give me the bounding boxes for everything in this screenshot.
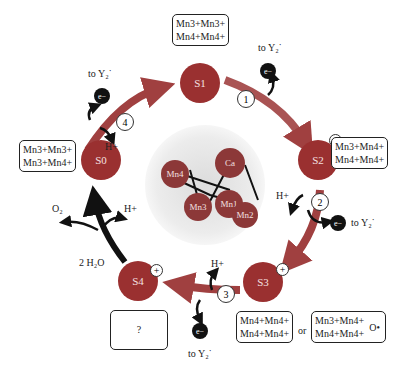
step-1: 1 [237, 90, 255, 108]
oxidation-s3: Mn4+Mn4+Mn4+Mn4+ [236, 311, 293, 343]
h-output: H+ [124, 203, 137, 214]
electron-2: e− [330, 215, 346, 231]
step-4: 4 [116, 113, 134, 131]
oxidation-s1: Mn3+Mn3+Mn4+Mn4+ [172, 14, 229, 46]
to-yz-2: to Y₂˙ [351, 217, 375, 228]
oxidation-s4: ? [110, 310, 168, 350]
proton-2: H+ [276, 190, 289, 201]
oxidation-s0: Mn3+Mn3+Mn3+Mn4+ [19, 140, 76, 172]
electron-4: e− [94, 88, 110, 104]
proton-3: H+ [211, 258, 224, 269]
atom-mn2: Mn2 [232, 202, 258, 228]
atom-mn3: Mn3 [184, 193, 212, 221]
to-yz-1: to Y₂˙ [258, 42, 282, 53]
or-label: or [298, 325, 306, 336]
step-3: 3 [217, 285, 235, 303]
o2-output: O₂ [52, 203, 63, 214]
proton-4: H+ [105, 141, 118, 152]
to-yz-4: to Y₂˙ [88, 68, 112, 79]
atom-ca: Ca [215, 148, 245, 178]
atom-mn4: Mn4 [161, 160, 189, 188]
electron-3: e− [192, 323, 208, 339]
oxidation-s3-alt: Mn3+Mn4+Mn4+Mn4+O• [311, 311, 386, 343]
step-2: 2 [311, 193, 329, 211]
state-s1: S1 [180, 63, 220, 103]
water-input: 2 H₂O [79, 257, 104, 268]
charge-s4: + [150, 264, 163, 277]
electron-1: e− [260, 63, 276, 79]
charge-s3: + [276, 263, 289, 276]
oxidation-s2: Mn3+Mn4+Mn4+Mn4+ [331, 137, 388, 169]
to-yz-3: to Y₂˙ [188, 348, 212, 359]
